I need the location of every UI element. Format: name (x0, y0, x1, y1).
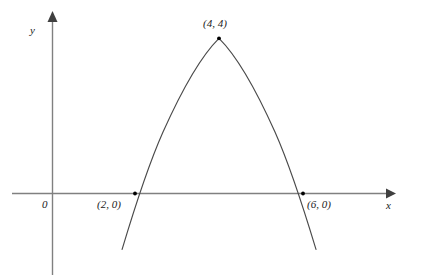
vertex-marker-dot (217, 36, 221, 40)
coordinate-plane-plot (0, 0, 424, 275)
root-right-point-label: (6, 0) (307, 199, 331, 210)
x-axis-label: x (386, 200, 391, 211)
root-left-marker-dot (133, 192, 137, 196)
root-left-point-label: (2, 0) (97, 199, 121, 210)
vertex-point-label: (4, 4) (203, 18, 227, 29)
root-right-marker-dot (301, 192, 305, 196)
x-axis-arrowhead-icon (386, 189, 396, 199)
parabola-figure: y x 0 (4, 4) (2, 0) (6, 0) (0, 0, 424, 275)
y-axis-arrowhead-icon (48, 11, 58, 22)
y-axis-label: y (30, 25, 35, 36)
origin-label: 0 (42, 199, 48, 210)
x-axis (12, 189, 396, 199)
y-axis (48, 11, 58, 275)
parabola-curve (122, 38, 316, 249)
